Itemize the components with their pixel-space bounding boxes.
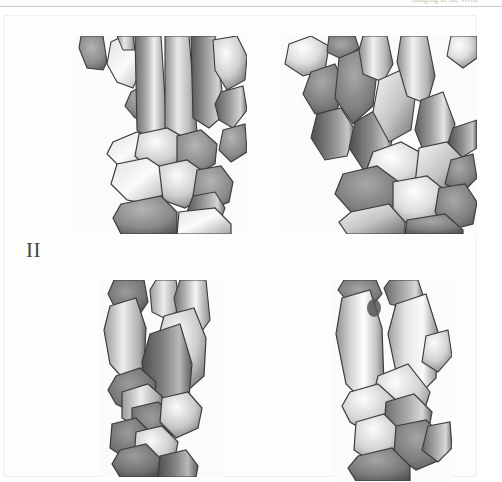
render-panel-bottom-right (334, 280, 452, 481)
figure-container: II (3, 15, 477, 477)
header-divider (0, 6, 502, 7)
render-panel-top-right (281, 36, 477, 234)
figure-panel-label: II (26, 240, 41, 261)
render-panel-top-left (73, 36, 247, 234)
wrist-bone-render-bottom-left (102, 280, 224, 477)
wrist-bone-render-bottom-right (334, 280, 452, 481)
running-header-text: Imaging of the Wrist (412, 0, 478, 4)
wrist-bone-render-top-left (73, 36, 247, 234)
wrist-bone-render-top-right (281, 36, 477, 234)
render-panel-bottom-left (102, 280, 224, 477)
